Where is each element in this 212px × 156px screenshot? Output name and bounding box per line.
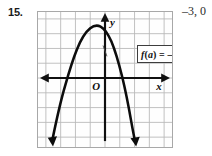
answer-text: –3, 0 <box>182 5 206 17</box>
x-axis-label: x <box>155 80 162 92</box>
coordinate-graph: x y O f(a) = –2r2 – 6r <box>37 11 173 148</box>
exercise-item: 15. –3, 0 <box>0 0 212 156</box>
exercise-number: 15. <box>8 7 23 18</box>
origin-label: O <box>92 80 100 92</box>
y-axis-label: y <box>108 16 115 28</box>
function-formula: f(a) = –2r2 – 6r <box>141 49 173 60</box>
graph-canvas: x y O <box>38 12 172 147</box>
function-label-callout: f(a) = –2r2 – 6r <box>137 45 173 63</box>
